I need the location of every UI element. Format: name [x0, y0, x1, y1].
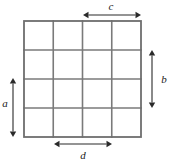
dimension-arrowhead-start-a [10, 78, 16, 84]
grid-dimension-figure: abcd [0, 0, 172, 166]
dimension-b: b [149, 50, 167, 108]
figure-canvas: abcd [0, 0, 172, 166]
dimension-arrowhead-end-d [107, 141, 113, 147]
dimension-d: d [54, 141, 112, 161]
dimension-arrowhead-end-c [136, 12, 142, 18]
dimension-arrowhead-start-b [149, 50, 155, 56]
dimension-label-c: c [109, 0, 114, 12]
dimension-arrowhead-start-c [83, 12, 89, 18]
dimension-c: c [83, 0, 141, 18]
dimension-arrowhead-start-d [54, 141, 60, 147]
dimension-arrowhead-end-b [149, 103, 155, 109]
dimension-label-a: a [2, 97, 8, 109]
dimension-arrowhead-end-a [10, 132, 16, 138]
dimension-label-d: d [80, 149, 86, 161]
dimension-label-b: b [161, 73, 167, 85]
dimension-a: a [2, 78, 16, 137]
